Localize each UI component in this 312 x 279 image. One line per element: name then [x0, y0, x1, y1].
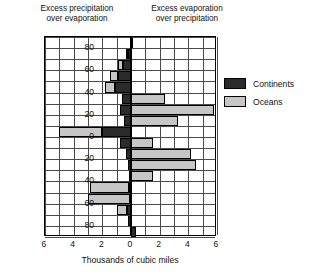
left-header-line1: Excess precipitation	[22, 4, 132, 14]
x-axis-label: Thousands of cubic miles	[44, 255, 216, 265]
y-tick-text: 80	[54, 42, 94, 52]
x-tick-label: 0	[120, 239, 140, 249]
y-tick-label: 20	[54, 158, 94, 168]
bar-segment-oceans	[126, 49, 128, 59]
bar-segment-oceans	[131, 171, 153, 181]
bar-segment-oceans	[131, 116, 178, 126]
y-tick-label: 40	[54, 180, 94, 190]
bar-segment-oceans	[118, 60, 123, 70]
bar-segment-oceans	[131, 94, 165, 104]
legend-item: Continents	[224, 78, 294, 89]
gridline-vertical	[217, 37, 218, 235]
legend-item: Oceans	[224, 96, 294, 107]
y-tick-label: 60	[54, 69, 94, 79]
y-tick-label: 80	[54, 225, 94, 235]
y-tick-label: 60	[54, 203, 94, 213]
legend-swatch-oceans	[224, 96, 246, 107]
y-tick-text: 20	[54, 153, 94, 163]
y-tick-text: 20	[54, 109, 94, 119]
legend-swatch-continents	[224, 78, 246, 89]
x-tick-label: 2	[149, 239, 169, 249]
left-header-line2: over evaporation	[22, 14, 132, 24]
x-tick-label: 2	[91, 239, 111, 249]
y-tick-text: 0	[54, 131, 94, 141]
legend: ContinentsOceans	[224, 78, 294, 114]
y-tick-label: 0	[54, 136, 94, 146]
zero-axis-line	[130, 37, 132, 235]
y-tick-text: 40	[54, 175, 94, 185]
bar-segment-oceans	[90, 182, 129, 192]
legend-label: Oceans	[253, 97, 283, 107]
chart-container: Excess precipitation over evaporation Ex…	[0, 0, 312, 279]
right-header-line1: Excess evaporation	[132, 4, 242, 14]
bar-segment-oceans	[131, 105, 214, 115]
bar-segment-continents	[115, 82, 131, 92]
x-tick-label: 4	[63, 239, 83, 249]
bar-segment-oceans	[131, 160, 196, 170]
y-tick-text: 60	[54, 198, 94, 208]
bar-segment-continents	[102, 127, 131, 137]
x-tick-label: 6	[34, 239, 54, 249]
bar-segment-oceans	[131, 149, 191, 159]
bar-segment-oceans	[105, 82, 115, 92]
y-tick-text: 40	[54, 87, 94, 97]
y-tick-text: 60	[54, 64, 94, 74]
y-tick-text: 80	[54, 220, 94, 230]
gridline-horizontal	[45, 237, 215, 238]
bar-segment-oceans	[88, 194, 130, 204]
left-header: Excess precipitation over evaporation	[22, 4, 132, 24]
y-tick-label: 80	[54, 47, 94, 57]
bar-segment-oceans	[110, 71, 119, 81]
y-tick-label: 40	[54, 92, 94, 102]
x-tick-label: 4	[177, 239, 197, 249]
x-tick-label: 6	[206, 239, 226, 249]
right-header-line2: over precipitation	[132, 14, 242, 24]
bar-segment-oceans	[131, 138, 153, 148]
right-header: Excess evaporation over precipitation	[132, 4, 242, 24]
bar-segment-oceans	[117, 205, 127, 215]
legend-label: Continents	[253, 79, 294, 89]
y-tick-label: 20	[54, 114, 94, 124]
